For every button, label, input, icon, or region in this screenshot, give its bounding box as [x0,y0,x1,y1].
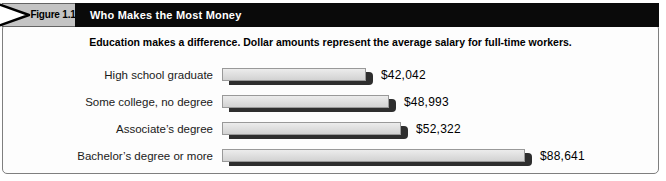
bar-row: Bachelor’s degree or more $88,641 [3,144,658,171]
bar [222,149,525,166]
bar-fill [222,122,401,135]
bar-fill [222,95,389,108]
bar-row-label: High school graduate [3,69,213,81]
bar-value-label: $88,641 [540,149,585,163]
bar-fill [222,149,525,162]
bar-row: Some college, no degree $48,993 [3,90,658,117]
bar-line: $88,641 [222,149,585,166]
bar-value-label: $52,322 [416,122,461,136]
figure-box: Education makes a difference. Dollar amo… [2,24,659,174]
bar-row-label: Bachelor’s degree or more [3,150,213,162]
bar-line: $42,042 [222,68,426,85]
bar [222,95,389,112]
bar [222,68,366,85]
bar-row: Associate’s degree $52,322 [3,117,658,144]
figure-header: Figure 1.1 Who Makes the Most Money [0,3,666,27]
bar-value-label: $42,042 [381,68,426,82]
figure-title: Who Makes the Most Money [90,9,241,21]
bar-row-label: Some college, no degree [3,96,213,108]
bar-value-label: $48,993 [404,95,449,109]
bar [222,122,401,139]
bar-row: High school graduate $42,042 [3,63,658,90]
figure-tab-label: Figure 1.1 [29,3,77,27]
bar-line: $52,322 [222,122,461,139]
bar-fill [222,68,366,81]
figure-title-bar: Who Makes the Most Money [75,3,659,27]
bar-rows: High school graduate $42,042 Some colleg… [3,63,658,171]
figure-tab: Figure 1.1 [0,3,80,27]
bar-row-label: Associate’s degree [3,123,213,135]
chart-subtitle: Education makes a difference. Dollar amo… [3,25,658,49]
bar-line: $48,993 [222,95,449,112]
